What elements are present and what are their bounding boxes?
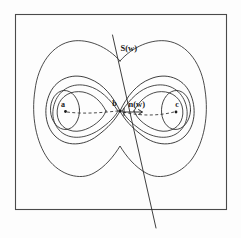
saddle-b-dot [119,110,122,113]
contour-diagram-svg: S(w) b n(w) a c [0,0,241,238]
well-a-dot [64,110,67,113]
contour-level-5 [34,41,207,177]
contour-figure: S(w) b n(w) a c [0,0,241,238]
well-c-label: c [175,100,179,109]
separatrix-sw-line [113,35,157,228]
separatrix-sw-label: S(w) [121,43,138,53]
saddle-point-b-label: b [112,99,117,108]
guide-line-a-to-b [67,111,117,113]
normal-vector-nw-label: n(w) [129,99,146,109]
well-a-label: a [61,100,65,109]
well-c-dot [175,111,178,114]
